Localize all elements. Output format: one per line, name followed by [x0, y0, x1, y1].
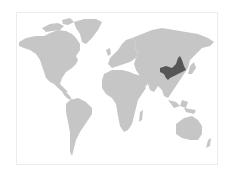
japan: [188, 62, 196, 74]
north-america: [19, 30, 80, 93]
south-america: [66, 98, 92, 156]
madagascar: [139, 110, 143, 122]
great-britain: [106, 48, 111, 56]
new-zealand: [206, 138, 211, 148]
southeast-asia-islands: [168, 100, 196, 114]
greenland: [74, 19, 102, 44]
arctic-islands: [42, 18, 74, 32]
central-america: [60, 88, 72, 100]
australia: [176, 116, 202, 140]
europe: [108, 38, 138, 68]
world-map: [0, 0, 229, 174]
